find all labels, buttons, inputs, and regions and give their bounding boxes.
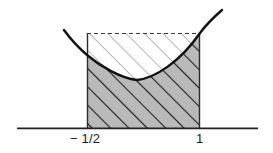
x-tick-label-right: 1 (196, 132, 203, 145)
figure-canvas (0, 0, 273, 153)
x-tick-label-left: − 1/2 (70, 132, 100, 145)
math-figure: − 1/2 1 (0, 0, 273, 153)
